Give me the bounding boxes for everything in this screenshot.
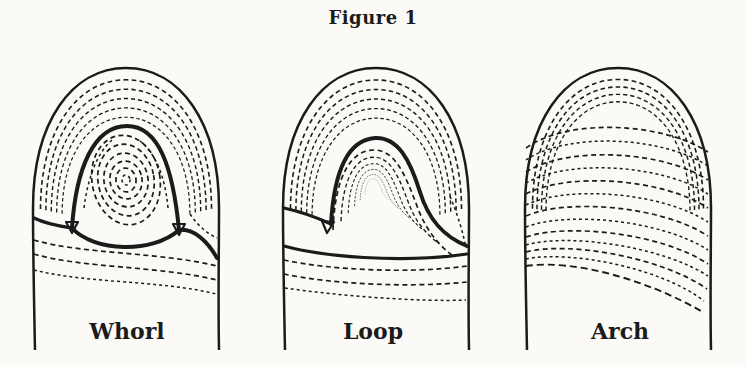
pattern-label-loop: Loop [343, 318, 403, 344]
loop-drawing: Loop [270, 56, 482, 358]
pattern-label-arch: Arch [590, 318, 649, 344]
finger-outline [33, 68, 219, 350]
figure-title: Figure 1 [0, 7, 746, 28]
fingerprint-arch: Arch [512, 56, 724, 358]
dome-ridge-lines [533, 79, 704, 210]
fingerprint-whorl: Whorl [20, 56, 232, 358]
ridge-field-boundary [526, 265, 701, 311]
whorl-drawing: Whorl [20, 56, 232, 358]
recurve-type-line [284, 138, 467, 246]
fingerprint-loop: Loop [270, 56, 482, 358]
figure-canvas: Figure 1 [0, 0, 746, 365]
arch-drawing: Arch [512, 56, 724, 358]
pattern-label-whorl: Whorl [88, 318, 164, 344]
finger-outline [283, 68, 469, 350]
dome-ridge-lines [41, 80, 212, 214]
loop-hairpin-ridges [333, 150, 453, 256]
dome-ridge-lines [291, 80, 462, 215]
